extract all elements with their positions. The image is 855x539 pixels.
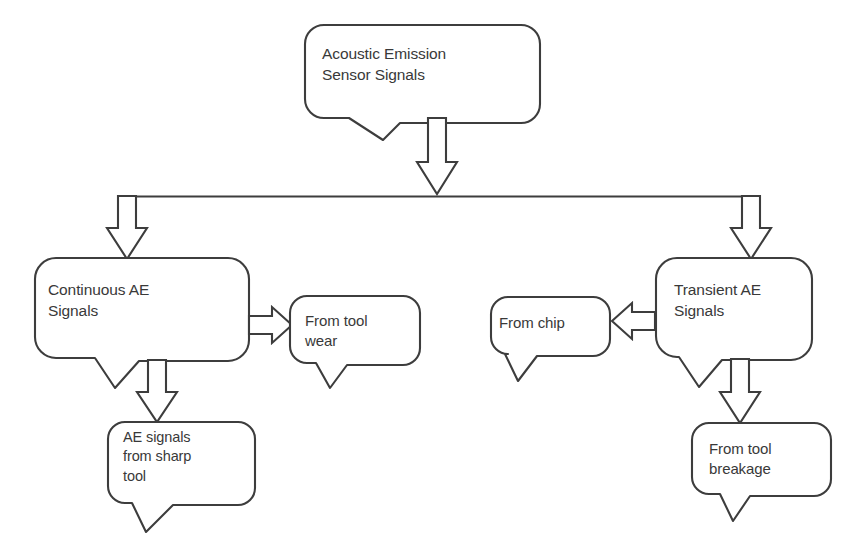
arrow-transient-to-chip <box>612 303 655 339</box>
arrow-transient-to-tool-breakage <box>720 359 760 423</box>
node-tool-wear-shape <box>290 296 420 388</box>
arrow-continuous-to-sharp-tool-shape <box>137 360 177 422</box>
arrow-bus-to-continuous-shape <box>107 196 147 259</box>
node-root-shape <box>305 25 540 140</box>
node-sharp-tool-shape <box>108 422 255 532</box>
arrow-root-to-bus-shape <box>417 118 457 194</box>
arrow-bus-to-transient-shape <box>731 196 771 259</box>
node-sharp-tool[interactable] <box>108 422 255 532</box>
flowchart-diagram: Acoustic Emission Sensor Signals Continu… <box>0 0 855 539</box>
arrow-transient-to-chip-shape <box>612 303 655 339</box>
arrow-continuous-to-tool-wear-shape <box>249 307 292 343</box>
node-tool-breakage[interactable] <box>692 423 831 521</box>
node-continuous-ae-shape <box>35 258 249 388</box>
node-root[interactable] <box>305 25 540 140</box>
arrow-continuous-to-tool-wear <box>249 307 292 343</box>
arrow-root-to-bus <box>417 118 457 194</box>
node-continuous-ae[interactable] <box>35 258 249 388</box>
arrow-transient-to-tool-breakage-shape <box>720 359 760 423</box>
node-tool-breakage-shape <box>692 423 831 521</box>
node-tool-wear[interactable] <box>290 296 420 388</box>
node-chip-shape <box>491 297 610 381</box>
arrow-bus-to-continuous <box>107 196 147 259</box>
diagram-canvas <box>0 0 855 539</box>
arrow-continuous-to-sharp-tool <box>137 360 177 422</box>
node-chip[interactable] <box>491 297 610 381</box>
arrow-bus-to-transient <box>731 196 771 259</box>
